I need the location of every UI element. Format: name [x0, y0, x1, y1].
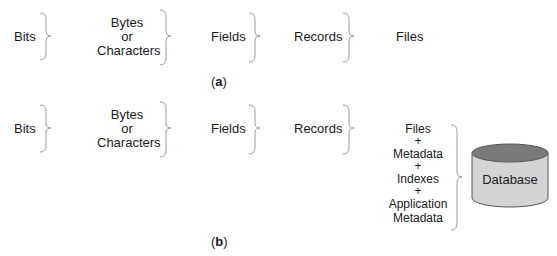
label-stack-b: Files + Metadata + Indexes + Application… — [383, 122, 453, 225]
brace-icon — [160, 10, 171, 65]
stack-application: Application — [383, 197, 453, 211]
stack-plus: + — [383, 136, 453, 147]
label-files-a: Files — [396, 30, 423, 44]
characters-line: Characters — [97, 44, 157, 58]
label-fields-b: Fields — [211, 122, 246, 136]
label-bytes-a: Bytes or Characters — [97, 16, 157, 58]
brace-icon — [343, 105, 354, 154]
stack-plus: + — [383, 161, 453, 172]
bytes-line: Bytes — [97, 16, 157, 30]
or-line: or — [97, 30, 157, 44]
brace-icon — [160, 102, 171, 157]
brace-icon — [40, 13, 51, 60]
label-records-a: Records — [294, 30, 342, 44]
or-line: or — [97, 122, 157, 136]
stack-plus: + — [383, 186, 453, 197]
caption-a: (a) — [211, 74, 227, 89]
bytes-line: Bytes — [97, 108, 157, 122]
stack-app-metadata: Metadata — [383, 211, 453, 225]
brace-icon — [343, 13, 354, 62]
brace-icon — [249, 105, 260, 154]
diagram-graphics — [0, 0, 557, 256]
brace-icon — [40, 105, 51, 152]
label-bits-a: Bits — [14, 30, 36, 44]
caption-b: (b) — [211, 234, 228, 249]
label-records-b: Records — [294, 122, 342, 136]
characters-line: Characters — [97, 136, 157, 150]
label-bytes-b: Bytes or Characters — [97, 108, 157, 150]
label-fields-a: Fields — [211, 30, 246, 44]
label-bits-b: Bits — [14, 122, 36, 136]
brace-icon — [249, 13, 260, 62]
database-label: Database — [475, 172, 545, 187]
